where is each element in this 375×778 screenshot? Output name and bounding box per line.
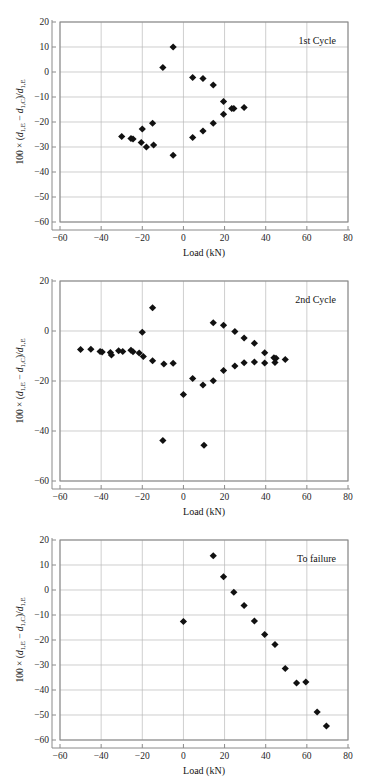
x-tick-label: 80 [343, 751, 353, 761]
figure-page: −60−40−2002040608020100−10−20−30−40−50−6… [0, 0, 375, 778]
data-point [139, 125, 146, 132]
data-point [241, 359, 248, 366]
data-point [282, 665, 289, 672]
x-tick-label: 0 [181, 233, 186, 243]
data-point [251, 340, 258, 347]
y-tick-label: −60 [34, 735, 49, 745]
data-point [261, 631, 268, 638]
data-point [199, 381, 206, 388]
data-point [210, 81, 217, 88]
data-point [170, 360, 177, 367]
data-points [77, 304, 289, 449]
y-tick-label: 20 [40, 17, 50, 27]
data-point [210, 552, 217, 559]
data-point [231, 362, 238, 369]
y-axis: 200−20−40−60 [34, 276, 56, 489]
x-tick-label: 60 [302, 751, 312, 761]
y-axis-title: 100 × (d1,E − d1,C)/d1,E [15, 79, 26, 164]
y-tick-label: −10 [34, 610, 49, 620]
data-point [143, 143, 150, 150]
y-tick-label: 10 [40, 42, 50, 52]
x-axis: −60−40−20020406080 [52, 226, 353, 243]
y-tick-label: 0 [44, 326, 49, 336]
grid-lines [60, 22, 348, 222]
x-tick-label: 80 [343, 492, 353, 502]
x-axis: −60−40−20020406080 [52, 744, 353, 761]
data-point [261, 349, 268, 356]
panel-title: To failure [297, 553, 337, 564]
data-point [210, 120, 217, 127]
data-point [241, 104, 248, 111]
grid-lines [60, 281, 348, 481]
x-tick-label: 0 [181, 492, 186, 502]
y-tick-label: 20 [40, 276, 50, 286]
data-point [200, 442, 207, 449]
plot-panel-2nd-cycle: −60−40−20020406080200−20−40−60Load (kN)1… [0, 259, 375, 518]
y-tick-label: −30 [34, 660, 49, 670]
chart-panel-1st-cycle: −60−40−2002040608020100−10−20−30−40−50−6… [0, 0, 375, 259]
x-tick-label: −40 [94, 751, 109, 761]
chart-panel-to-failure: −60−40−2002040608020100−10−20−30−40−50−6… [0, 518, 375, 777]
data-point [150, 141, 157, 148]
data-point [231, 328, 238, 335]
x-tick-label: 20 [220, 233, 230, 243]
y-tick-label: −20 [34, 117, 49, 127]
data-point [282, 356, 289, 363]
data-point [159, 64, 166, 71]
data-points [118, 43, 248, 158]
y-tick-label: −10 [34, 92, 49, 102]
data-point [251, 617, 258, 624]
data-point [210, 377, 217, 384]
data-point [180, 618, 187, 625]
x-tick-label: 40 [261, 233, 271, 243]
data-point [241, 334, 248, 341]
data-point [271, 641, 278, 648]
data-point [314, 708, 321, 715]
data-point [199, 127, 206, 134]
y-tick-label: −20 [34, 635, 49, 645]
data-point [149, 304, 156, 311]
y-tick-label: −60 [34, 217, 49, 227]
data-point [180, 391, 187, 398]
x-tick-label: 0 [181, 751, 186, 761]
data-point [261, 359, 268, 366]
data-points [180, 552, 330, 729]
x-tick-label: 80 [343, 233, 353, 243]
data-point [210, 319, 217, 326]
data-point [170, 152, 177, 159]
x-axis-title: Load (kN) [183, 765, 225, 777]
panel-title: 1st Cycle [299, 35, 337, 46]
x-axis-title: Load (kN) [183, 247, 225, 259]
x-tick-label: −60 [53, 751, 68, 761]
data-point [138, 139, 145, 146]
data-point [293, 679, 300, 686]
data-point [251, 358, 258, 365]
data-point [149, 120, 156, 127]
y-tick-label: −30 [34, 142, 49, 152]
y-tick-label: −40 [34, 426, 49, 436]
y-tick-label: −50 [34, 192, 49, 202]
plot-panel-1st-cycle: −60−40−2002040608020100−10−20−30−40−50−6… [0, 0, 375, 259]
data-point [189, 134, 196, 141]
data-point [149, 357, 156, 364]
x-tick-label: −20 [135, 233, 150, 243]
data-point [220, 98, 227, 105]
data-point [189, 74, 196, 81]
y-tick-label: 0 [44, 67, 49, 77]
y-axis-title: 100 × (d1,E − d1,C)/d1,E [15, 597, 26, 682]
x-tick-label: 60 [302, 233, 312, 243]
y-tick-label: −40 [34, 685, 49, 695]
y-axis: 20100−10−20−30−40−50−60 [34, 535, 56, 748]
x-tick-label: 20 [220, 751, 230, 761]
data-point [220, 322, 227, 329]
data-point [220, 111, 227, 118]
data-point [199, 75, 206, 82]
y-tick-label: −20 [34, 376, 49, 386]
data-point [118, 133, 125, 140]
data-point [220, 367, 227, 374]
data-point [170, 43, 177, 50]
y-axis-title: 100 × (d1,E − d1,C)/d1,E [15, 338, 26, 423]
data-point [241, 602, 248, 609]
x-tick-label: −40 [94, 233, 109, 243]
data-point [323, 722, 330, 729]
